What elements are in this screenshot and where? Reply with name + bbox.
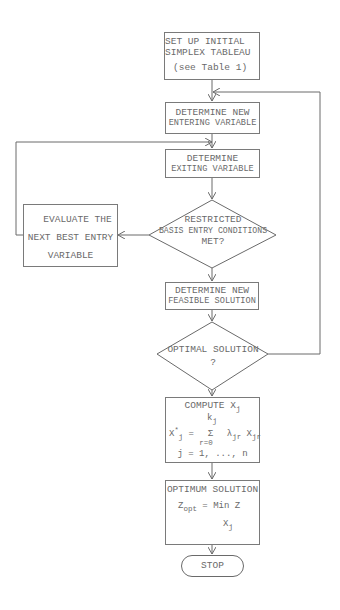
node-text: DETERMINE bbox=[166, 153, 259, 164]
stop-label: STOP bbox=[201, 560, 224, 571]
compute-xj-box: COMPUTE Xj kj X*j = Σ r=0 λjr Xjr j = 1,… bbox=[165, 397, 260, 463]
node-text: ENTERING VARIABLE bbox=[166, 118, 259, 129]
stop-terminal: STOP bbox=[181, 555, 244, 577]
node-text: SIMPLEX TABLEAU bbox=[165, 47, 259, 58]
restricted-decision-text: RESTRICTED BASIS ENTRY CONDITIONS MET? bbox=[150, 214, 276, 247]
setup-initial-tableau-box: SET UP INITIAL SIMPLEX TABLEAU (see Tabl… bbox=[164, 32, 260, 80]
node-text: EXITING VARIABLE bbox=[166, 164, 259, 175]
determine-feasible-solution-box: DETERMINE NEW FEASIBLE SOLUTION bbox=[165, 282, 259, 310]
node-text: ? bbox=[158, 357, 268, 368]
optimum-solution-box: OPTIMUM SOLUTION Zopt = Min Z Xj bbox=[165, 480, 260, 545]
node-text: (see Table 1) bbox=[165, 62, 259, 73]
node-text: RESTRICTED bbox=[150, 214, 276, 225]
compute-range: j = 1, ..., n bbox=[166, 449, 259, 460]
node-text: OPTIMAL SOLUTION bbox=[158, 344, 268, 355]
compute-formula: X*j = Σ r=0 λjr Xjr bbox=[169, 425, 261, 443]
evaluate-next-best-entry-box: EVALUATE THE NEXT BEST ENTRY VARIABLE bbox=[23, 204, 118, 267]
node-text: BASIS ENTRY CONDITIONS bbox=[150, 225, 276, 236]
node-text: MET? bbox=[150, 236, 276, 247]
node-text: SET UP INITIAL bbox=[165, 36, 259, 47]
node-text: EVALUATE THE bbox=[24, 214, 117, 225]
optimal-decision-text: OPTIMAL SOLUTION ? bbox=[158, 344, 268, 368]
node-text: DETERMINE NEW bbox=[166, 285, 258, 296]
node-text: FEASIBLE SOLUTION bbox=[166, 296, 258, 307]
node-text: NEXT BEST ENTRY bbox=[24, 232, 117, 243]
optimum-title: OPTIMUM SOLUTION bbox=[166, 484, 259, 495]
determine-entering-variable-box: DETERMINE NEW ENTERING VARIABLE bbox=[165, 102, 260, 134]
node-text: DETERMINE NEW bbox=[166, 107, 259, 118]
node-text: VARIABLE bbox=[24, 250, 117, 261]
determine-exiting-variable-box: DETERMINE EXITING VARIABLE bbox=[165, 149, 260, 178]
optimum-formula: Zopt = Min Z bbox=[178, 501, 240, 515]
optimum-under: Xj bbox=[223, 519, 233, 533]
